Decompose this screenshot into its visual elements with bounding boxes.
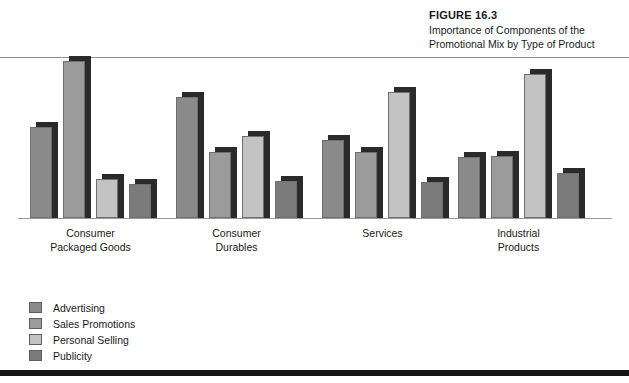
figure-number: FIGURE 16.3	[429, 8, 625, 22]
legend-item[interactable]: Sales Promotions	[29, 316, 135, 331]
bar[interactable]	[209, 152, 231, 218]
legend-item[interactable]: Publicity	[29, 348, 135, 363]
bar[interactable]	[96, 179, 118, 218]
chart-baseline-axis	[18, 218, 612, 219]
legend-swatch-icon	[29, 334, 42, 345]
legend-item-label: Publicity	[53, 350, 92, 362]
bar[interactable]	[275, 181, 297, 218]
bar[interactable]	[176, 97, 198, 218]
bar-face	[209, 152, 231, 218]
bar[interactable]	[242, 136, 264, 218]
legend-item[interactable]: Personal Selling	[29, 332, 135, 347]
bar[interactable]	[63, 61, 85, 218]
bar-face	[96, 179, 118, 218]
bar-face	[275, 181, 297, 218]
bar[interactable]	[355, 152, 377, 218]
bar-face	[30, 127, 52, 218]
legend-swatch-icon	[29, 302, 42, 313]
legend-item-label: Advertising	[53, 302, 105, 314]
legend-item-label: Sales Promotions	[53, 318, 135, 330]
bar-face	[557, 173, 579, 218]
bar-face	[355, 152, 377, 218]
bar-face	[176, 97, 198, 218]
bar[interactable]	[491, 156, 513, 218]
bar[interactable]	[388, 92, 410, 218]
bar[interactable]	[322, 140, 344, 218]
bar-group	[176, 40, 305, 218]
bar-face	[388, 92, 410, 218]
bar-face	[242, 136, 264, 218]
figure-container: FIGURE 16.3 Importance of Components of …	[0, 0, 629, 383]
bar-group	[30, 40, 159, 218]
legend-swatch-icon	[29, 350, 42, 361]
bar-face	[63, 61, 85, 218]
bar-face	[458, 157, 480, 218]
bottom-divider-rule	[0, 370, 629, 376]
bar-face	[129, 184, 151, 218]
bar[interactable]	[458, 157, 480, 218]
bar-face	[524, 74, 546, 218]
bar[interactable]	[30, 127, 52, 218]
legend-item[interactable]: Advertising	[29, 300, 135, 315]
bar-face	[421, 182, 443, 218]
bar[interactable]	[421, 182, 443, 218]
bar[interactable]	[557, 173, 579, 218]
legend-swatch-icon	[29, 318, 42, 329]
bar-face	[322, 140, 344, 218]
bar[interactable]	[129, 184, 151, 218]
bar-group	[322, 40, 451, 218]
bar-face	[491, 156, 513, 218]
bar-group	[458, 40, 587, 218]
category-label: Industrial Products	[428, 227, 609, 255]
chart-legend: AdvertisingSales PromotionsPersonal Sell…	[29, 300, 135, 364]
legend-item-label: Personal Selling	[53, 334, 129, 346]
bar[interactable]	[524, 74, 546, 218]
